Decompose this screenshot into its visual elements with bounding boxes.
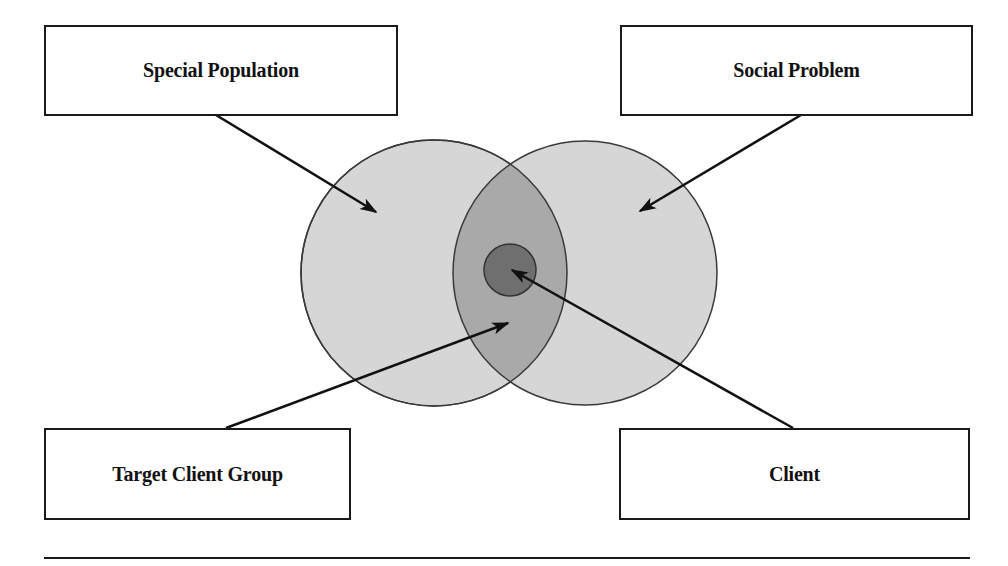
social-problem-box: Social Problem: [620, 25, 973, 116]
special-population-label: Special Population: [143, 59, 299, 82]
client-box: Client: [619, 428, 970, 520]
bottom-divider: [44, 557, 970, 559]
arrow-social-problem: [640, 115, 801, 211]
diagram-canvas: Special Population Social Problem Target…: [0, 0, 1008, 566]
special-population-box: Special Population: [44, 25, 398, 116]
arrow-special-population: [216, 115, 376, 212]
social-problem-label: Social Problem: [733, 59, 859, 82]
target-client-group-label: Target Client Group: [112, 463, 283, 486]
client-label: Client: [769, 463, 820, 486]
target-client-group-box: Target Client Group: [44, 428, 351, 520]
client-core-circle: [484, 244, 536, 296]
